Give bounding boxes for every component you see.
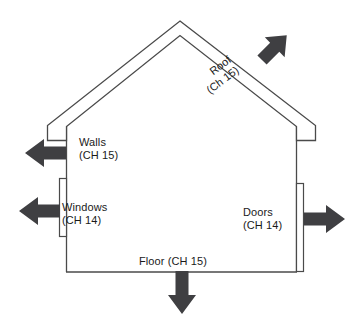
doors-arrow [304,205,345,233]
walls-arrow [25,139,66,167]
doors-label-line1: Doors [243,206,273,218]
windows-label: Windows (CH 14) [62,201,107,227]
windows-arrow-shape [19,197,60,225]
roof-arrow-shape [252,25,297,70]
floor-label: Floor (CH 15) [139,255,207,268]
walls-arrow-shape [25,139,66,167]
walls-label-line1: Walls [79,136,106,148]
walls-label: Walls (CH 15) [79,136,118,162]
doors-label-line2: (CH 14) [243,219,282,232]
roof-arrow [252,25,297,70]
windows-arrow [19,197,60,225]
floor-label-line1: Floor (CH 15) [139,255,207,267]
windows-label-line1: Windows [62,201,107,213]
house-heat-loss-diagram: Roof (Ch 15) Walls (CH 15) Windows (CH 1… [0,0,351,328]
floor-arrow [168,271,196,314]
walls-label-line2: (CH 15) [79,149,118,162]
doors-arrow-shape [304,205,345,233]
windows-label-line2: (CH 14) [62,214,107,227]
floor-arrow-shape [168,271,196,314]
door-rect [297,184,304,272]
house-schematic-svg [0,0,351,328]
doors-label: Doors (CH 14) [243,206,282,232]
